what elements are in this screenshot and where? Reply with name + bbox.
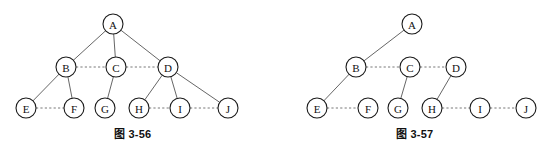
node-h: H: [129, 98, 149, 118]
node-label-c: C: [406, 62, 413, 74]
node-i: I: [170, 98, 190, 118]
edge-solid-d-i: [171, 77, 177, 99]
edge-solid-b-e: [324, 74, 349, 101]
node-d: D: [158, 57, 178, 77]
node-c: C: [106, 57, 126, 77]
node-label-f: F: [365, 103, 371, 115]
figure-caption-right: 图 3-57: [396, 125, 433, 141]
node-label-c: C: [112, 62, 119, 74]
edge-solid-a-b: [73, 31, 105, 60]
edge-solid-d-h: [437, 76, 451, 100]
node-f: F: [358, 98, 378, 118]
node-label-h: H: [428, 103, 436, 115]
edges-layer: [33, 30, 516, 108]
node-label-g: G: [101, 103, 109, 115]
node-label-a: A: [408, 19, 416, 31]
node-b: B: [346, 57, 366, 77]
node-e: E: [16, 98, 36, 118]
node-c: C: [400, 57, 420, 77]
node-label-j: J: [524, 103, 529, 115]
node-f: F: [64, 98, 84, 118]
node-label-g: G: [394, 103, 402, 115]
edge-solid-d-h: [145, 75, 162, 100]
diagram-canvas: ABCDEFGHIJABCDEFGHIJ: [0, 0, 544, 158]
node-g: G: [95, 98, 115, 118]
edge-solid-c-g: [401, 77, 407, 99]
node-label-e: E: [23, 103, 30, 115]
node-j: J: [516, 98, 536, 118]
figure-caption-left: 图 3-56: [114, 125, 151, 141]
node-label-b: B: [62, 62, 69, 74]
node-e: E: [307, 98, 327, 118]
node-label-d: D: [452, 62, 460, 74]
edge-solid-b-f: [68, 77, 72, 98]
node-label-e: E: [314, 103, 321, 115]
edge-solid-a-d: [121, 30, 160, 61]
node-label-b: B: [352, 62, 359, 74]
node-label-f: F: [71, 103, 77, 115]
node-label-a: A: [109, 19, 117, 31]
node-i: I: [470, 98, 490, 118]
edge-solid-a-c: [114, 34, 116, 57]
node-a: A: [402, 14, 422, 34]
nodes-layer: ABCDEFGHIJABCDEFGHIJ: [16, 14, 536, 118]
node-d: D: [446, 57, 466, 77]
node-label-h: H: [135, 103, 143, 115]
node-label-d: D: [164, 62, 172, 74]
node-a: A: [103, 14, 123, 34]
node-g: G: [388, 98, 408, 118]
node-j: J: [218, 98, 238, 118]
node-label-i: I: [178, 103, 182, 115]
edge-solid-c-g: [108, 77, 114, 99]
edge-solid-b-e: [33, 74, 59, 101]
node-h: H: [422, 98, 442, 118]
node-label-i: I: [478, 103, 482, 115]
edge-solid-a-b: [364, 30, 404, 61]
node-b: B: [56, 57, 76, 77]
node-label-j: J: [226, 103, 231, 115]
